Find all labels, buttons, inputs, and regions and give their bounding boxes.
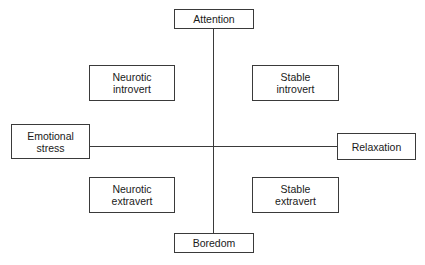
vertical-axis-line xyxy=(213,29,214,233)
quadrant-diagram: Attention Boredom Emotional stress Relax… xyxy=(0,0,425,265)
relaxation-label: Relaxation xyxy=(352,141,402,153)
boredom-label: Boredom xyxy=(193,237,236,249)
neurotic-extravert-label: Neurotic extravert xyxy=(112,183,153,207)
stable-extravert-label: Stable extravert xyxy=(275,183,316,207)
emotional-stress-label: Emotional stress xyxy=(27,130,74,154)
stable-introvert-label: Stable introvert xyxy=(277,71,315,95)
quadrant-neurotic-extravert: Neurotic extravert xyxy=(89,177,175,213)
axis-right-relaxation: Relaxation xyxy=(337,133,416,160)
attention-label: Attention xyxy=(193,13,234,25)
horizontal-axis-line xyxy=(89,146,337,147)
neurotic-introvert-label: Neurotic introvert xyxy=(112,71,151,95)
quadrant-stable-extravert: Stable extravert xyxy=(252,177,339,213)
axis-top-attention: Attention xyxy=(174,9,254,29)
axis-bottom-boredom: Boredom xyxy=(174,233,254,253)
quadrant-neurotic-introvert: Neurotic introvert xyxy=(89,65,175,101)
axis-left-emotional-stress: Emotional stress xyxy=(11,124,90,159)
quadrant-stable-introvert: Stable introvert xyxy=(252,65,339,101)
